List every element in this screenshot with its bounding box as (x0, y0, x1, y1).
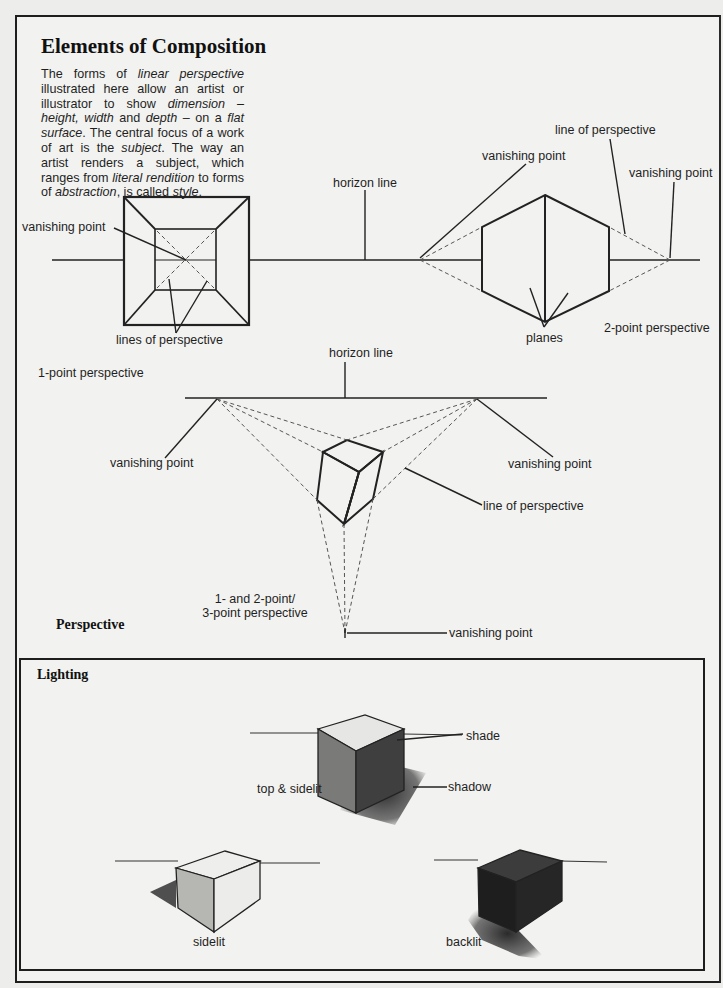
label-shade: shade (466, 729, 500, 743)
label-backlit: backlit (446, 935, 481, 949)
cube-sidelit (115, 851, 320, 932)
label-sidelit: sidelit (193, 935, 225, 949)
lighting-drawings (0, 0, 723, 988)
label-top-sidelit: top & sidelit (257, 782, 322, 796)
cube-top-sidelit (250, 715, 463, 825)
label-shadow: shadow (448, 780, 491, 794)
